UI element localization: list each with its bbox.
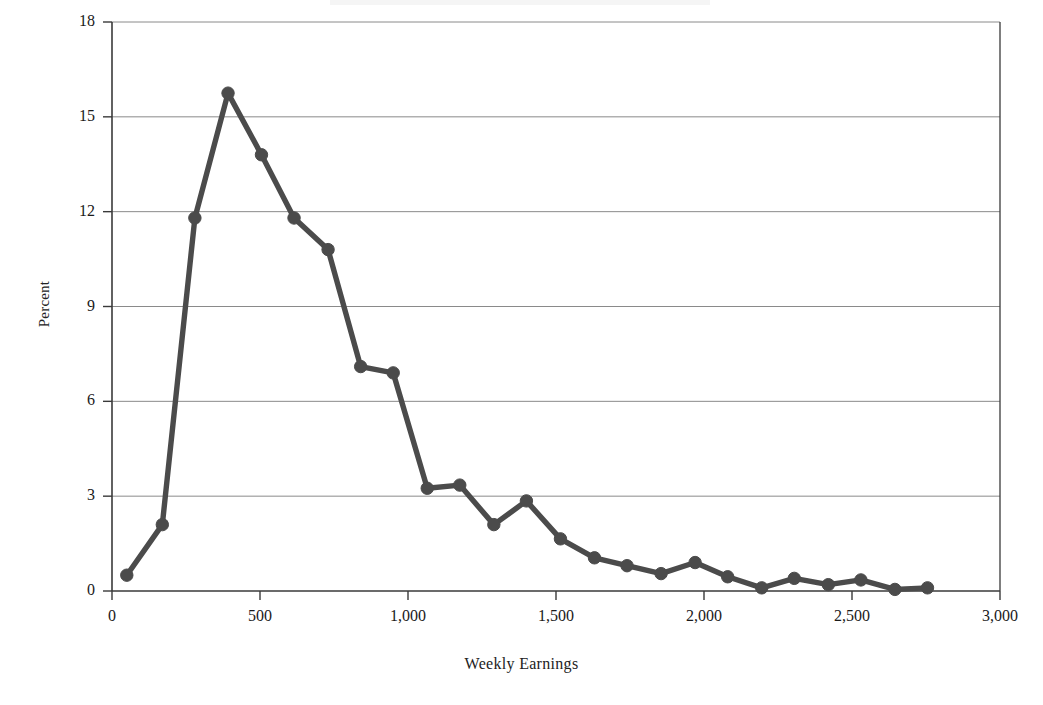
data-point-marker [189,212,201,224]
data-point-marker [689,556,701,568]
data-point-marker [322,243,334,255]
data-point-marker [855,574,867,586]
data-point-marker [222,87,234,99]
data-point-marker [554,533,566,545]
data-point-marker [889,583,901,595]
data-point-marker [454,479,466,491]
data-point-marker [488,518,500,530]
data-line-series [127,93,928,589]
line-chart-plot [0,0,1043,705]
data-point-marker [421,482,433,494]
chart-container: Percent Weekly Earnings 0369121518 05001… [0,0,1043,705]
data-point-marker [520,495,532,507]
data-point-marker [756,582,768,594]
data-point-marker [822,578,834,590]
data-point-marker [121,569,133,581]
data-point-marker [354,360,366,372]
data-point-marker [721,571,733,583]
data-point-marker [387,367,399,379]
data-point-marker [788,572,800,584]
data-point-marker [288,212,300,224]
data-point-marker [255,149,267,161]
data-point-marker [921,582,933,594]
data-point-marker [621,560,633,572]
data-point-marker [156,518,168,530]
data-point-marker [655,567,667,579]
data-point-marker [588,552,600,564]
